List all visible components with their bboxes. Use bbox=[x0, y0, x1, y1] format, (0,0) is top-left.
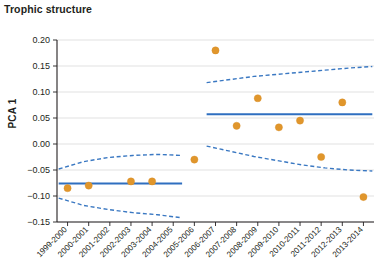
data-point bbox=[318, 153, 325, 160]
y-tick-label: 0.05 bbox=[32, 113, 50, 123]
y-tick-label: 0.00 bbox=[32, 139, 50, 149]
data-point bbox=[212, 47, 219, 54]
ci-lower-band-3 bbox=[207, 146, 373, 171]
data-point bbox=[85, 182, 92, 189]
data-point bbox=[127, 178, 134, 185]
data-point bbox=[64, 185, 71, 192]
ci-upper-band-3 bbox=[207, 67, 373, 83]
data-point bbox=[254, 95, 261, 102]
y-tick-label: −0.05 bbox=[27, 165, 50, 175]
y-tick-label: −0.10 bbox=[27, 191, 50, 201]
data-point bbox=[233, 122, 240, 129]
data-point bbox=[149, 178, 156, 185]
ci-lower-band-2 bbox=[59, 198, 182, 218]
data-point bbox=[275, 124, 282, 131]
y-tick-label: 0.10 bbox=[32, 87, 50, 97]
y-tick-label: 0.15 bbox=[32, 61, 50, 71]
data-point bbox=[191, 156, 198, 163]
ci-upper-band-2 bbox=[59, 154, 182, 169]
data-point bbox=[339, 99, 346, 106]
plot-area: 0.200.150.100.050.00−0.05−0.10−0.151999-… bbox=[0, 0, 378, 275]
data-point bbox=[296, 117, 303, 124]
chart-container: Trophic structure PCA 1 0.200.150.100.05… bbox=[0, 0, 378, 275]
y-tick-label: −0.15 bbox=[27, 217, 50, 227]
data-point bbox=[360, 193, 367, 200]
y-tick-label: 0.20 bbox=[32, 35, 50, 45]
